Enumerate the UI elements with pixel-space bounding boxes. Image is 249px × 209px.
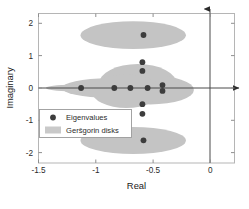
disk-upper bbox=[81, 21, 186, 49]
x-tick-label: -0.5 bbox=[146, 166, 161, 175]
eigenvalue-point bbox=[145, 85, 151, 91]
y-axis-label: Imaginary bbox=[4, 67, 15, 108]
eigenvalue-point bbox=[140, 101, 146, 107]
legend[interactable]: Eigenvalues Geršgorin disks bbox=[40, 110, 132, 138]
legend-marker-eigenvalues bbox=[50, 115, 56, 121]
legend-label-disks: Geršgorin disks bbox=[66, 126, 119, 135]
eigenvalue-point bbox=[111, 85, 117, 91]
x-tick-label: -1.5 bbox=[31, 166, 46, 175]
disk-central-e bbox=[92, 74, 161, 108]
x-axis-label: Real bbox=[127, 180, 146, 191]
eigenvalue-point bbox=[78, 85, 84, 91]
legend-swatch-disks bbox=[45, 127, 61, 134]
eigenvalue-point bbox=[140, 68, 146, 74]
gersgorin-disk-plot: -1.5 -1 -0.5 0 2 1 0 -1 -2 Real Imaginar… bbox=[0, 0, 249, 209]
y-tick-label: 0 bbox=[28, 84, 33, 93]
eigenvalue-point bbox=[160, 82, 166, 88]
eigenvalue-point bbox=[160, 88, 166, 94]
eigenvalue-point bbox=[141, 137, 147, 143]
figure-container: -1.5 -1 -0.5 0 2 1 0 -1 -2 Real Imaginar… bbox=[0, 0, 249, 209]
x-tick-label: 0 bbox=[208, 166, 213, 175]
y-tick-label: -1 bbox=[26, 116, 34, 125]
y-tick-label: -2 bbox=[26, 149, 34, 158]
y-tick-label: 2 bbox=[28, 19, 33, 28]
eigenvalue-point bbox=[141, 32, 147, 38]
y-tick-label: 1 bbox=[28, 52, 33, 61]
legend-label-eigenvalues: Eigenvalues bbox=[66, 113, 108, 122]
eigenvalue-point bbox=[127, 85, 133, 91]
eigenvalue-point bbox=[140, 111, 146, 117]
eigenvalue-point bbox=[140, 59, 146, 65]
x-tick-label: -1 bbox=[92, 166, 100, 175]
